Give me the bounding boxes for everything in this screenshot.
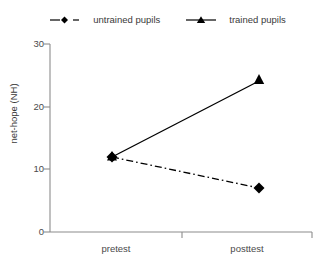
- y-tick-label-10: 10: [22, 164, 44, 174]
- data-point-trained-posttest: [254, 74, 264, 84]
- chart-plot-area: [0, 0, 336, 267]
- x-tick-label-posttest: posttest: [230, 243, 263, 254]
- series-line-untrained-pupils: [112, 157, 259, 188]
- y-tick-label-wrap-20: 20: [22, 102, 44, 112]
- x-tick-label-wrap-pretest: pretest: [50, 238, 182, 250]
- chart-figure: untrained pupils trained pupils: [0, 0, 336, 267]
- series-line-trained-pupils: [112, 81, 259, 157]
- y-tick-label-30: 30: [22, 39, 44, 49]
- y-tick-label-wrap-0: 0: [22, 227, 44, 237]
- y-tick-label-0: 0: [22, 227, 44, 237]
- x-tick-label-wrap-posttest: posttest: [182, 238, 312, 250]
- y-axis-title: net-hope (NH): [8, 54, 19, 174]
- y-tick-label-wrap-30: 30: [22, 39, 44, 49]
- data-point-untrained-posttest: [254, 183, 265, 194]
- x-tick-label-pretest: pretest: [101, 243, 130, 254]
- y-tick-label-20: 20: [22, 102, 44, 112]
- y-tick-label-wrap-10: 10: [22, 164, 44, 174]
